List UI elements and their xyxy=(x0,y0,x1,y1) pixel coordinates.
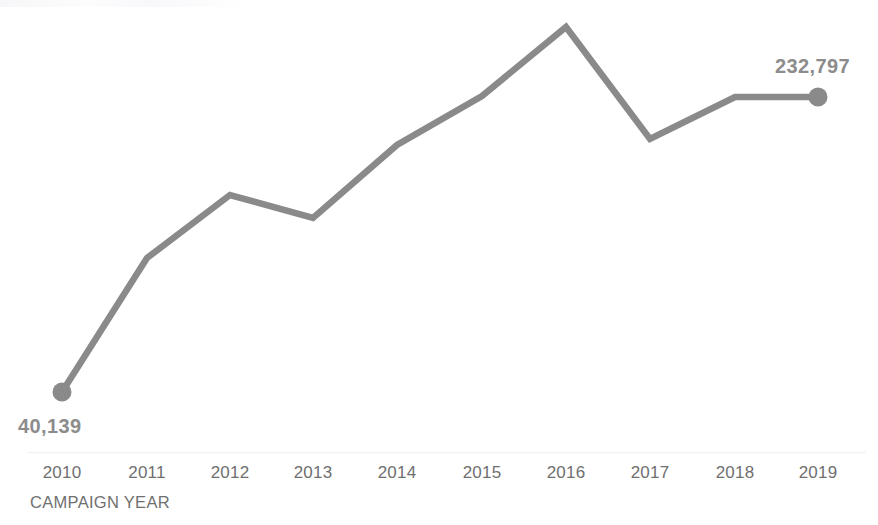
data-point-marker-2010 xyxy=(53,383,72,402)
data-point-marker-2019 xyxy=(809,88,828,107)
x-tick-2010: 2010 xyxy=(20,462,104,484)
x-tick-2018: 2018 xyxy=(693,462,777,484)
data-line-participants xyxy=(62,27,818,392)
x-tick-2017: 2017 xyxy=(608,462,692,484)
x-axis-title: CAMPAIGN YEAR xyxy=(30,492,170,512)
x-tick-2019: 2019 xyxy=(776,462,860,484)
x-tick-2012: 2012 xyxy=(188,462,272,484)
data-label-last: 232,797 xyxy=(775,54,850,78)
x-tick-2015: 2015 xyxy=(440,462,524,484)
x-axis-tick-labels: 2010 2011 2012 2013 2014 2015 2016 2017 … xyxy=(0,462,878,486)
x-tick-2016: 2016 xyxy=(524,462,608,484)
x-tick-2014: 2014 xyxy=(355,462,439,484)
chart-plot-area xyxy=(0,0,878,525)
data-label-first: 40,139 xyxy=(18,414,82,438)
x-tick-2011: 2011 xyxy=(105,462,189,484)
line-chart: 40,139 232,797 2010 2011 2012 2013 2014 … xyxy=(0,0,878,525)
x-tick-2013: 2013 xyxy=(271,462,355,484)
